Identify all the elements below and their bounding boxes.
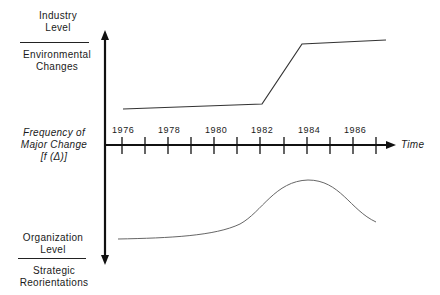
year-1980: 1980 — [205, 125, 227, 135]
down-arrow-icon — [101, 255, 109, 265]
reorientation-frequency-curve — [118, 180, 376, 239]
year-1976: 1976 — [112, 125, 134, 135]
year-1984: 1984 — [298, 125, 320, 135]
right-arrow-icon — [386, 141, 396, 149]
year-1982: 1982 — [251, 125, 273, 135]
year-1978: 1978 — [158, 125, 180, 135]
diagram-canvas — [0, 0, 440, 295]
environmental-change-line — [123, 40, 386, 109]
time-axis-label: Time — [401, 139, 424, 151]
year-1986: 1986 — [344, 125, 366, 135]
up-arrow-icon — [101, 30, 109, 40]
